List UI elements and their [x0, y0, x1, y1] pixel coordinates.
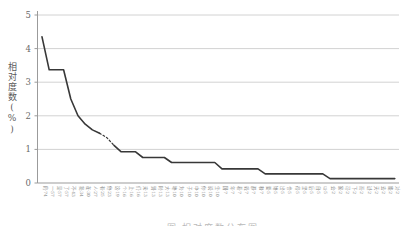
x-tick-label: 时·13	[158, 186, 164, 197]
x-tick-labels: 的·74一·57是·57了·57不·43我·34在·30人·27有·25他·23…	[42, 186, 402, 197]
x-tick-label: 说·10	[207, 186, 214, 197]
x-tick-label: 生·10	[215, 186, 221, 197]
x-tick-label: 就·7	[243, 186, 250, 194]
x-tick-label: 着·7	[236, 186, 243, 194]
line-segment-head	[42, 37, 100, 134]
x-tick-label: 以·5	[323, 186, 328, 194]
chart-canvas: 相对度数(%) 012345的·74一·57是·57了·57不·43我·34在·…	[0, 0, 408, 226]
x-tick-label: 天·2	[373, 186, 379, 194]
x-tick-label: 中·10	[193, 186, 200, 197]
x-tick-label: 而·2	[358, 186, 364, 194]
x-tick-label: 我·34	[79, 186, 85, 197]
x-tick-label: 能·2	[387, 186, 394, 194]
x-tick-label: 过·2	[366, 186, 373, 194]
x-tick-label: 为·10	[178, 186, 185, 197]
x-tick-label: 到·13	[151, 186, 157, 197]
x-tick-label: 了·57	[64, 186, 70, 197]
y-tick-label-4: 4	[26, 44, 31, 54]
x-tick-label: 你·10	[201, 186, 207, 197]
x-tick-label: 国·7	[222, 186, 228, 194]
y-tick-label-5: 5	[26, 10, 31, 20]
y-tick-label-1: 1	[26, 144, 31, 154]
x-tick-label: 个·16	[122, 186, 127, 197]
x-tick-label: 是·57	[56, 186, 62, 197]
x-tick-label: 大·13	[164, 186, 171, 197]
x-tick-label: 地·10	[172, 186, 178, 197]
x-tick-label: 会·2	[330, 186, 337, 194]
x-tick-label: 有·25	[99, 186, 106, 197]
axes	[35, 11, 400, 183]
x-tick-label: 对·2	[395, 186, 401, 194]
y-tick-label-0: 0	[26, 178, 31, 188]
line-segment-tail	[114, 145, 395, 178]
line-segment-dashed	[100, 133, 114, 145]
x-tick-label: 人·27	[93, 186, 98, 197]
x-tick-label: 可·2	[345, 186, 350, 194]
figure-caption: 图 相对度数分布图	[88, 221, 338, 226]
x-tick-label: 一·57	[50, 186, 55, 197]
x-tick-label: 年·7	[229, 186, 236, 194]
y-tick-label-3: 3	[26, 77, 31, 87]
rank-frequency-line	[42, 37, 395, 179]
x-tick-label: 也·5	[287, 186, 293, 194]
x-tick-label: 她·5	[272, 186, 279, 194]
x-tick-label: 和·7	[258, 186, 265, 194]
x-tick-label: 里·5	[302, 186, 307, 194]
x-tick-label: 子·10	[187, 186, 193, 197]
x-tick-label: 要·5	[265, 186, 271, 194]
x-tick-label: 后·5	[308, 186, 315, 194]
y-tick-labels: 012345	[26, 10, 31, 188]
x-tick-label: 们·16	[135, 186, 142, 197]
x-tick-label: 来·13	[142, 186, 148, 197]
x-tick-label: 下·2	[351, 186, 357, 194]
x-tick-label: 去·2	[380, 186, 387, 194]
x-tick-label: 那·7	[250, 186, 257, 194]
x-tick-label: 在·30	[86, 186, 92, 197]
x-tick-label: 自·5	[315, 186, 322, 194]
x-tick-label: 不·43	[70, 186, 76, 197]
y-tick-label-2: 2	[26, 111, 31, 121]
rank-frequency-line-chart: 012345的·74一·57是·57了·57不·43我·34在·30人·27有·…	[0, 0, 408, 226]
x-tick-label: 的·74	[42, 186, 49, 197]
x-tick-label: 他·23	[106, 186, 113, 197]
x-tick-label: 出·5	[279, 186, 286, 194]
x-tick-label: 家·2	[338, 186, 344, 194]
x-tick-label: 得·5	[295, 186, 301, 194]
x-tick-label: 这·19	[114, 186, 121, 197]
x-tick-label: 上·16	[129, 186, 135, 197]
